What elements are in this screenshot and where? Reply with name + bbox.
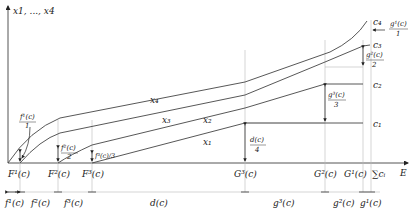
annot-g2-num: g²(c) bbox=[366, 51, 383, 59]
label-c2: c₂ bbox=[373, 80, 382, 90]
label-c1: c₁ bbox=[373, 119, 382, 129]
tick-G3: G³(c) bbox=[234, 169, 257, 179]
interval-g3: g³(c) bbox=[273, 198, 295, 208]
label-c3: c₃ bbox=[373, 40, 382, 50]
label-c4: c₄ bbox=[373, 17, 382, 27]
curve-x4 bbox=[8, 21, 367, 163]
interval-f1: f¹(c) bbox=[4, 198, 24, 208]
annot-f1-num: f¹(c) bbox=[19, 113, 35, 121]
interval-g2: g²(c) bbox=[333, 198, 355, 208]
tick-G1: G¹(c) bbox=[344, 169, 367, 179]
label-x2: x₂ bbox=[203, 115, 212, 125]
x-axis-label: E bbox=[399, 168, 407, 178]
annot-f3: f³(c)/3 bbox=[94, 152, 115, 160]
diagram-canvas: x1, ..., x4 E x₄ x₃ x₂ x₁ c₄ c₃ c₂ c₁ d(… bbox=[0, 0, 416, 214]
interval-f3: f³(c) bbox=[63, 198, 83, 208]
annot-g2-den: 2 bbox=[371, 61, 377, 69]
annot-g1-num: g¹(c) bbox=[390, 20, 407, 28]
annot-f2-den: 2 bbox=[66, 153, 72, 161]
tick-F2: F²(c) bbox=[47, 169, 70, 179]
y-axis-label: x1, ..., x4 bbox=[13, 6, 55, 16]
tick-F1: F¹(c) bbox=[7, 169, 30, 179]
annot-g3-den: 3 bbox=[334, 101, 339, 109]
annot-f2-num: f²(c) bbox=[60, 144, 76, 152]
annot-d-den: 4 bbox=[254, 146, 259, 154]
annot-f1-den: 1 bbox=[25, 122, 29, 130]
label-x3: x₃ bbox=[162, 115, 171, 125]
tick-sum: ∑cᵢ bbox=[372, 169, 385, 179]
annot-g1-den: 1 bbox=[396, 30, 400, 38]
label-x4: x₄ bbox=[150, 95, 159, 105]
interval-g1: g¹(c) bbox=[360, 198, 382, 208]
curve-x1 bbox=[92, 123, 363, 163]
annot-d-num: d(c) bbox=[250, 136, 264, 144]
annot-g3-num: g³(c) bbox=[328, 91, 345, 99]
label-x1: x₁ bbox=[203, 137, 212, 147]
interval-d: d(c) bbox=[150, 198, 168, 208]
tick-F3: F³(c) bbox=[81, 169, 104, 179]
interval-f2: f²(c) bbox=[30, 198, 50, 208]
tick-G2: G²(c) bbox=[314, 169, 337, 179]
